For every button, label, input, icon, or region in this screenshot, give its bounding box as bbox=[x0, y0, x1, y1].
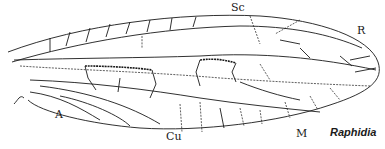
radius-vein bbox=[14, 55, 376, 70]
thick-vein bbox=[85, 66, 152, 70]
crossveins bbox=[14, 40, 376, 132]
species-label: Raphidia bbox=[330, 126, 376, 138]
vein-label-r: R bbox=[357, 24, 365, 37]
cubitus-vein bbox=[30, 80, 320, 112]
vein-label-m: M bbox=[296, 127, 307, 140]
vein-label-sc: Sc bbox=[231, 1, 245, 14]
wing-outline bbox=[8, 15, 379, 129]
media-vein bbox=[20, 66, 370, 86]
vein-label-a: A bbox=[55, 108, 63, 121]
vein-label-cu: Cu bbox=[166, 130, 182, 143]
wing-diagram bbox=[0, 0, 385, 149]
